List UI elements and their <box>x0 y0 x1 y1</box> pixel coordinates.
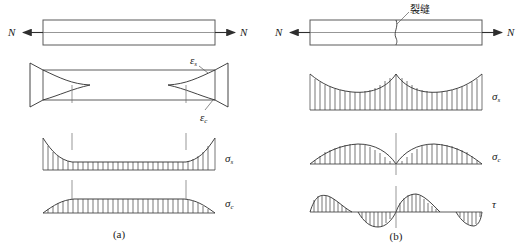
strain-left-upper-curve <box>43 70 90 85</box>
sigma-s-label: σs <box>225 152 233 166</box>
panel-b: N N 裂缝 <box>274 3 515 243</box>
sigma-s-label: σs <box>492 90 500 104</box>
sigma-c-envelope <box>43 199 215 213</box>
sigma-s-envelope <box>43 138 215 162</box>
panel-a-steel-stress-plot: σs <box>43 133 233 170</box>
sigma-c-label: σc <box>492 150 501 164</box>
panel-b-caption: (b) <box>390 230 403 243</box>
tau-lobe-3 <box>396 194 440 212</box>
panel-a-strain-diagram: εs εc <box>30 54 228 125</box>
panel-a-member: N N <box>7 20 248 45</box>
panel-a-concrete-stress-plot: σc <box>43 180 234 213</box>
panel-b-bond-stress-plot: τ <box>310 186 497 228</box>
strain-flare-lower-right <box>215 100 228 107</box>
tau-label: τ <box>492 198 497 210</box>
panel-b-member: N N 裂缝 <box>274 3 515 45</box>
strain-flare-upper-right <box>215 63 228 70</box>
force-label-left: N <box>7 26 16 38</box>
concrete-strain-label: εc <box>200 111 208 125</box>
steel-strain-label: εs <box>190 54 197 68</box>
panel-b-steel-stress-plot: σs <box>310 74 500 110</box>
strain-right-lower-curve <box>168 85 215 100</box>
strain-flare-upper-left <box>30 63 43 70</box>
sigma-c-label: σc <box>225 197 234 211</box>
concrete-strain-leader <box>205 100 213 110</box>
panel-b-concrete-stress-plot: σc <box>310 133 501 175</box>
figure-root: N N εs ε <box>0 0 521 250</box>
strain-left-lower-curve <box>43 85 90 100</box>
crack-label: 裂缝 <box>410 3 430 15</box>
panel-a-caption: (a) <box>113 228 126 241</box>
strain-flare-lower-left <box>30 100 43 107</box>
force-label-left: N <box>274 26 283 38</box>
panel-a: N N εs ε <box>7 20 248 241</box>
steel-strain-leader <box>199 66 208 73</box>
force-label-right: N <box>506 26 515 38</box>
force-label-right: N <box>239 26 248 38</box>
strain-right-upper-curve <box>168 70 215 85</box>
